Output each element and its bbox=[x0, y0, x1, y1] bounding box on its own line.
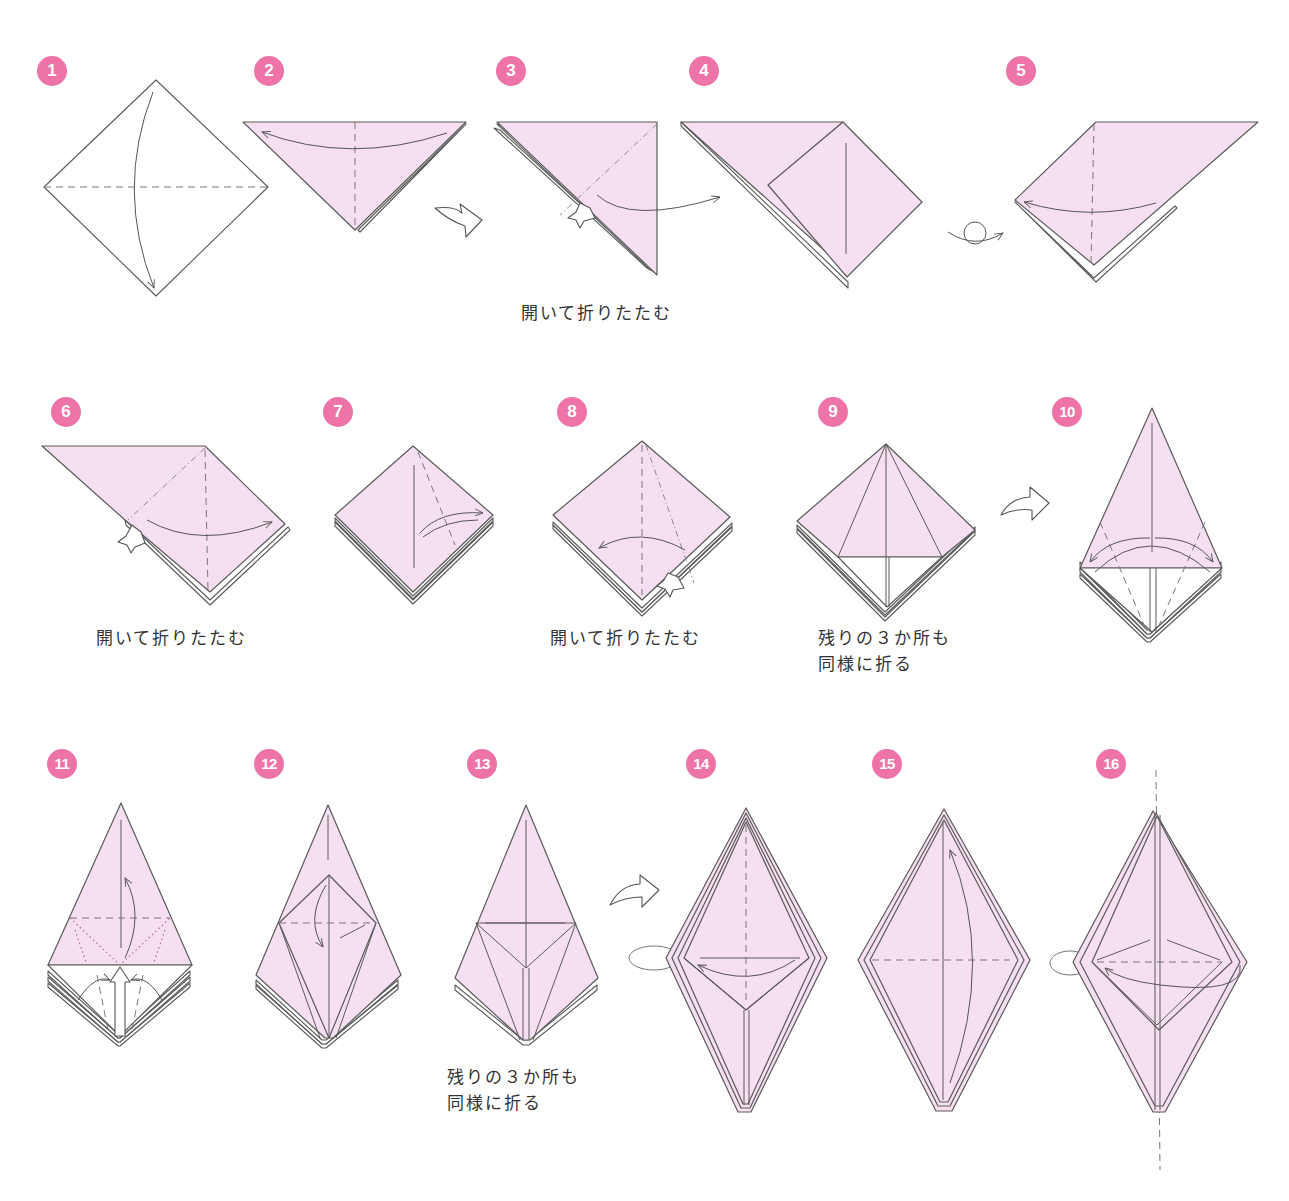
step-13-caption: 残りの３か所も 同様に折る bbox=[447, 1064, 580, 1116]
step-badge-8: 8 bbox=[557, 397, 587, 427]
step-2-diagram bbox=[243, 122, 466, 232]
step-7-diagram bbox=[335, 446, 493, 604]
step-badge-10: 10 bbox=[1052, 397, 1082, 427]
step-3-caption: 開いて折りたたむ bbox=[521, 300, 672, 326]
origami-instruction-sheet: 1 2 3 4 5 6 7 8 9 10 11 12 13 14 15 16 開… bbox=[0, 0, 1289, 1201]
step-13-diagram bbox=[455, 805, 598, 1045]
step-8-caption: 開いて折りたたむ bbox=[550, 625, 701, 651]
step-badge-2: 2 bbox=[254, 56, 284, 86]
step-badge-12: 12 bbox=[254, 749, 284, 779]
step-1-diagram bbox=[44, 80, 268, 296]
step-badge-1: 1 bbox=[37, 56, 67, 86]
step-9-caption: 残りの３か所も 同様に折る bbox=[818, 625, 951, 677]
step-badge-13: 13 bbox=[467, 749, 497, 779]
step-badge-7: 7 bbox=[323, 397, 353, 427]
step-10-diagram bbox=[1080, 408, 1222, 642]
step-11-diagram bbox=[48, 803, 192, 1046]
step-16-diagram bbox=[1050, 770, 1247, 1170]
step-badge-5: 5 bbox=[1006, 56, 1036, 86]
step-4-diagram bbox=[681, 122, 922, 288]
step-badge-6: 6 bbox=[51, 397, 81, 427]
turn-over-icon bbox=[948, 222, 1003, 244]
step-badge-4: 4 bbox=[689, 56, 719, 86]
step-badge-3: 3 bbox=[496, 56, 526, 86]
origami-diagrams bbox=[0, 0, 1289, 1201]
next-step-arrow bbox=[435, 204, 482, 237]
step-6-caption: 開いて折りたたむ bbox=[96, 625, 247, 651]
step-badge-11: 11 bbox=[47, 749, 77, 779]
step-9-diagram bbox=[797, 444, 975, 621]
step-12-diagram bbox=[256, 805, 401, 1048]
step-6-diagram bbox=[42, 446, 290, 605]
step-badge-15: 15 bbox=[872, 749, 902, 779]
step-15-diagram bbox=[858, 809, 1030, 1111]
step-3-diagram bbox=[494, 122, 720, 275]
step-badge-16: 16 bbox=[1096, 749, 1126, 779]
step-14-diagram bbox=[629, 808, 827, 1112]
step-badge-9: 9 bbox=[818, 397, 848, 427]
step-5-diagram bbox=[1015, 122, 1258, 282]
step-8-diagram bbox=[553, 441, 732, 616]
step-badge-14: 14 bbox=[686, 749, 716, 779]
